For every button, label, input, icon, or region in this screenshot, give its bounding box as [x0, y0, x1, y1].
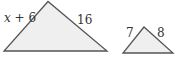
small-triangle-right-side-label: 8	[157, 26, 165, 40]
similar-triangles-diagram: x + 6 16 7 8	[0, 0, 180, 59]
large-triangle-right-side-label: 16	[77, 13, 92, 27]
large-triangle-left-side-label: x + 6	[4, 11, 36, 25]
small-triangle-left-side-label: 7	[126, 26, 134, 40]
